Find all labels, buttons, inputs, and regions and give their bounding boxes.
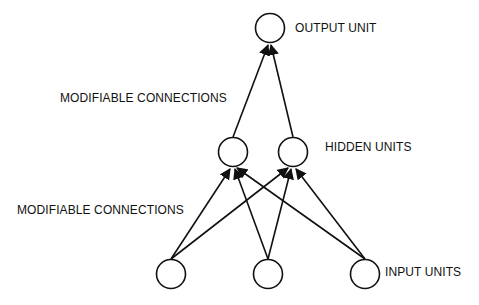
input-unit-3 <box>351 260 380 289</box>
connection-i2-h1 <box>235 169 268 259</box>
connection-i2-h2 <box>268 169 291 259</box>
connection-i1-h2 <box>171 168 288 259</box>
input-unit-2 <box>254 260 283 289</box>
input-units-label: INPUT UNITS <box>385 265 461 279</box>
input-unit-1 <box>157 260 186 289</box>
connection-h1-out <box>233 45 268 137</box>
connection-h2-out <box>271 45 293 137</box>
lower-connections-label: MODIFIABLE CONNECTIONS <box>17 203 184 217</box>
hidden-unit-1 <box>219 138 248 167</box>
upper-connections-label: MODIFIABLE CONNECTIONS <box>60 91 227 105</box>
output-unit <box>256 14 285 43</box>
output-unit-label: OUTPUT UNIT <box>295 21 377 35</box>
connection-i3-h2 <box>296 169 365 259</box>
connection-i3-h1 <box>237 168 365 259</box>
hidden-unit-2 <box>279 138 308 167</box>
hidden-units-label: HIDDEN UNITS <box>325 140 412 154</box>
